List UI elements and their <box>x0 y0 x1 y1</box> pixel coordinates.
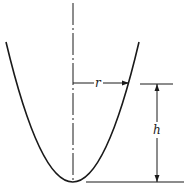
paraboloid-diagram: r h <box>0 0 184 190</box>
height-label: h <box>153 123 161 137</box>
radius-label: r <box>95 76 102 90</box>
